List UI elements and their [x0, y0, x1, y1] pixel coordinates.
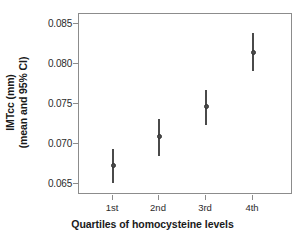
x-axis-tick-mark [158, 195, 159, 200]
y-axis-tick-label: 0.065 [32, 178, 72, 189]
y-axis-tick-mark [73, 143, 78, 144]
data-point-marker [111, 163, 116, 168]
data-point-marker [157, 134, 162, 139]
y-axis-tick-mark [73, 23, 78, 24]
x-axis-tick-mark [205, 195, 206, 200]
x-axis-tick-mark [112, 195, 113, 200]
chart-figure: IMTcc (mm) (mean and 95% CI) 0.0850.0800… [0, 0, 305, 237]
y-axis-tick-mark [73, 103, 78, 104]
plot-area [78, 13, 292, 194]
y-axis-tick-label: 0.085 [32, 18, 72, 29]
y-axis-tick-mark [73, 183, 78, 184]
y-axis-tick-label: 0.080 [32, 58, 72, 69]
y-axis-tick-label: 0.075 [32, 98, 72, 109]
y-axis-title-line1: IMTcc (mm) [5, 74, 17, 131]
y-axis-tick-label: 0.070 [32, 138, 72, 149]
y-axis-tick-mark [73, 63, 78, 64]
x-axis-tick-label: 4th [232, 202, 272, 213]
y-axis-title: IMTcc (mm) (mean and 95% CI) [0, 0, 34, 205]
x-axis-tick-label: 1st [92, 202, 132, 213]
data-point-marker [204, 104, 209, 109]
x-axis-tick-label: 3rd [185, 202, 225, 213]
x-axis-title: Quartiles of homocysteine levels [0, 218, 305, 230]
x-axis-tick-mark [252, 195, 253, 200]
x-axis-tick-label: 2nd [138, 202, 178, 213]
y-axis-tick-labels: 0.0850.0800.0750.0700.065 [30, 0, 72, 237]
data-point-marker [251, 50, 256, 55]
y-axis-title-line2: (mean and 95% CI) [17, 57, 29, 149]
